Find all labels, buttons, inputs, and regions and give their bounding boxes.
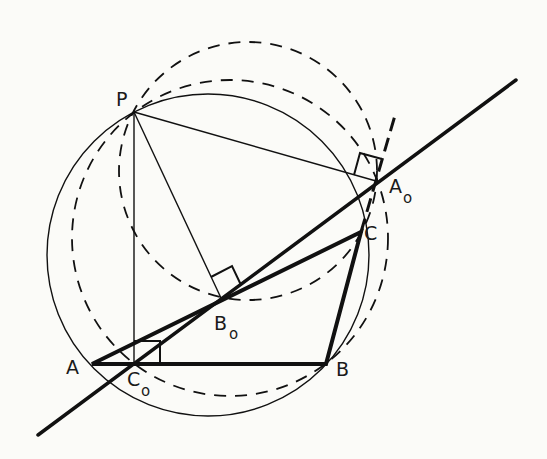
label-a: A [66,356,79,378]
label-p: P [116,88,127,110]
label-c: C [364,222,377,244]
diagram-svg: P A B C A o B o C o [0,0,547,459]
label-b: B [336,358,349,380]
right-angle-mark-b0 [211,266,241,285]
simson-line [38,80,516,435]
label-c0: C [127,368,140,390]
label-a0: A [389,175,402,197]
label-a0-sub: o [403,189,412,207]
perpendicular-p-b0 [134,112,221,298]
perpendicular-p-a0 [134,112,376,181]
label-c0-sub: o [141,382,150,400]
simson-line-diagram: P A B C A o B o C o [0,0,547,459]
triangle-abc [92,232,361,364]
label-b0-sub: o [229,325,238,343]
label-b0: B [214,312,227,334]
